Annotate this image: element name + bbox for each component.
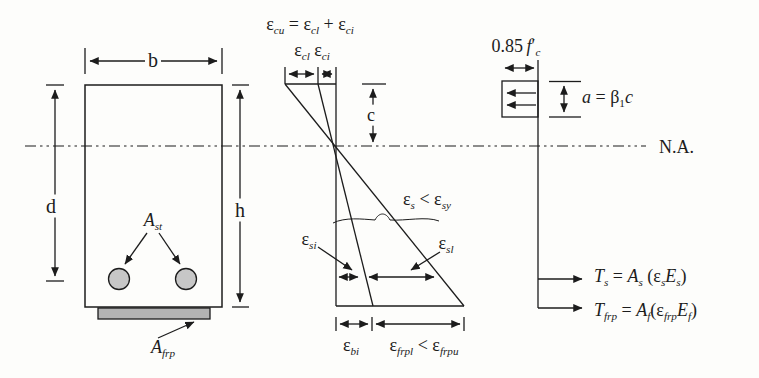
afrp-pointer xyxy=(158,322,194,338)
frp-strain-check-label: εfrpl < εfrpu xyxy=(389,335,458,356)
diagram-drawing xyxy=(0,0,759,378)
soffit-initial-strain-label: εbi xyxy=(343,335,359,356)
neutral-axis-label: N.A. xyxy=(659,137,694,158)
frp-force-equation: Tfrp = Af(εfrpEf) xyxy=(594,300,697,321)
steel-strain-brace xyxy=(333,214,439,223)
eps-si-pointer xyxy=(318,247,352,270)
eps-sl-pointer xyxy=(411,252,440,270)
d-dim-label: d xyxy=(43,195,59,218)
beam-outline xyxy=(85,85,222,307)
frp-area-label: Afrp xyxy=(151,337,175,358)
concrete-stress-label: 0.85 f′c xyxy=(491,36,540,57)
top-strain-parts-label: εcl εci xyxy=(294,40,330,61)
stress-block-depth-label: a = β1c xyxy=(582,87,633,108)
steel-initial-strain-label: εsi xyxy=(301,229,316,250)
figure-canvas: b d h Ast Afrp εcu = εcl + εci εcl εci c… xyxy=(0,0,759,378)
c-dim-label: c xyxy=(364,105,378,126)
steel-bar-right xyxy=(176,269,197,290)
ast-pointer-right xyxy=(159,233,180,264)
b-dim-label: b xyxy=(145,49,161,72)
h-dim-label: h xyxy=(232,199,248,222)
steel-force-equation: Ts = As (εsEs) xyxy=(594,266,687,287)
steel-strain-check-label: εs < εsy xyxy=(403,189,451,210)
frp-plate xyxy=(98,308,210,319)
top-strain-equation: εcu = εcl + εci xyxy=(266,14,354,35)
steel-bar-left xyxy=(109,269,130,290)
ast-pointer-left xyxy=(125,233,147,264)
steel-area-label: Ast xyxy=(144,210,162,231)
stress-block xyxy=(502,81,538,117)
steel-live-strain-label: εsl xyxy=(438,233,453,254)
